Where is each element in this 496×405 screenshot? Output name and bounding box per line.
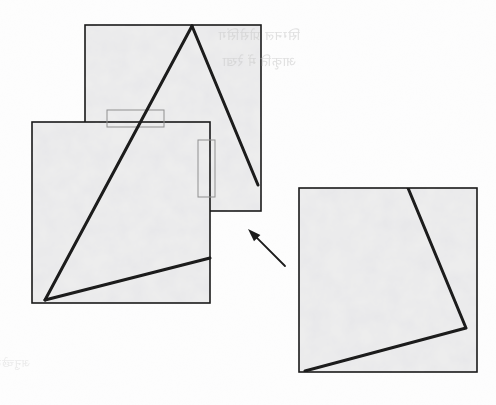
right-square: [299, 188, 477, 372]
geometry-figure-canvas: [0, 0, 496, 405]
scanned-figure-page: सिग्नल प्रोसेसिंग आकृति में रेखा अनुच्छे…: [0, 0, 496, 405]
right-square-fill: [299, 188, 477, 372]
